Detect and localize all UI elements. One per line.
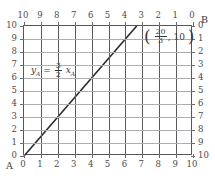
axis-tick-label-top: 5	[105, 11, 110, 20]
axis-tick-label-bottom: 0	[20, 160, 25, 169]
axis-tick-label-right: 8	[198, 125, 203, 134]
tick-left	[20, 91, 24, 92]
point-open-paren: (	[144, 26, 151, 46]
tick-right	[191, 130, 195, 131]
axis-tick-label-left: 0	[12, 151, 17, 160]
axis-tick-label-right: 5	[198, 86, 203, 95]
axis-tick-label-right: 10	[198, 151, 209, 160]
tick-left	[20, 130, 24, 131]
grid-line-vertical	[75, 26, 76, 154]
tick-right	[191, 117, 195, 118]
axis-tick-label-left: 6	[12, 73, 17, 82]
axis-tick-label-top: 0	[189, 11, 194, 20]
axis-tick-label-bottom: 6	[122, 160, 127, 169]
tick-bottom	[41, 154, 42, 158]
axis-tick-label-top: 4	[122, 11, 127, 20]
axis-tick-label-bottom: 5	[105, 160, 110, 169]
axis-tick-label-bottom: 8	[155, 160, 160, 169]
grid-line-vertical	[41, 26, 42, 154]
grid-line-horizontal	[24, 104, 191, 105]
graph-figure: A B yA = 3 2 xA ( 20 3 , 10 ) 1009182736…	[0, 0, 215, 183]
equation-fraction: 3 2	[55, 62, 62, 79]
axis-tick-label-right: 9	[198, 138, 203, 147]
tick-bottom	[24, 154, 25, 158]
axis-tick-label-bottom: 9	[172, 160, 177, 169]
axis-tick-label-right: 0	[198, 21, 203, 30]
axis-tick-label-top: 7	[71, 11, 76, 20]
tick-right	[191, 143, 195, 144]
equation-numerator: 3	[55, 62, 62, 70]
tick-bottom	[92, 154, 93, 158]
grid-line-vertical	[176, 26, 177, 154]
axis-tick-label-top: 3	[139, 11, 144, 20]
grid-line-vertical	[109, 26, 110, 154]
tick-left	[20, 65, 24, 66]
tick-bottom	[75, 154, 76, 158]
point-denominator: 3	[155, 36, 167, 45]
axis-tick-label-right: 4	[198, 73, 203, 82]
tick-left	[20, 78, 24, 79]
axis-tick-label-left: 10	[6, 21, 17, 30]
grid-line-horizontal	[24, 130, 191, 131]
axis-tick-label-bottom: 7	[139, 160, 144, 169]
axis-tick-label-left: 3	[12, 112, 17, 121]
axis-tick-label-top: 6	[88, 11, 93, 20]
axis-tick-label-left: 8	[12, 47, 17, 56]
grid-line-horizontal	[24, 52, 191, 53]
tick-left	[20, 52, 24, 53]
tick-left	[20, 104, 24, 105]
grid-line-vertical	[125, 26, 126, 154]
point-numerator: 20	[155, 28, 167, 36]
axis-tick-label-top: 2	[155, 11, 160, 20]
grid-line-vertical	[159, 26, 160, 154]
axis-tick-label-right: 6	[198, 99, 203, 108]
axis-tick-label-bottom: 4	[88, 160, 93, 169]
axis-tick-label-top: 8	[54, 11, 59, 20]
tick-left	[20, 117, 24, 118]
tick-top	[58, 22, 59, 26]
tick-top	[41, 22, 42, 26]
tick-top	[75, 22, 76, 26]
grid-line-vertical	[92, 26, 93, 154]
axis-tick-label-top: 1	[172, 11, 177, 20]
grid-line-horizontal	[24, 91, 191, 92]
axis-label-A: A	[6, 160, 13, 171]
grid-line-horizontal	[24, 143, 191, 144]
tick-bottom	[142, 154, 143, 158]
point-close-paren: )	[188, 26, 195, 46]
axis-tick-label-right: 3	[198, 60, 203, 69]
equation-annotation: yA = 3 2 xA	[31, 62, 75, 79]
tick-bottom	[176, 154, 177, 158]
axis-tick-label-bottom: 1	[37, 160, 42, 169]
tick-left	[20, 156, 24, 157]
axis-tick-label-left: 9	[12, 34, 17, 43]
tick-right	[191, 156, 195, 157]
axis-tick-label-bottom: 2	[54, 160, 59, 169]
axis-tick-label-left: 5	[12, 86, 17, 95]
equation-denominator: 2	[55, 70, 62, 79]
tick-left	[20, 143, 24, 144]
tick-bottom	[58, 154, 59, 158]
grid-line-vertical	[58, 26, 59, 154]
tick-right	[191, 104, 195, 105]
tick-left	[20, 39, 24, 40]
equation-lhs-sub: A	[36, 70, 40, 77]
equation-equals: =	[43, 66, 51, 76]
tick-bottom	[109, 154, 110, 158]
axis-tick-label-bottom: 3	[71, 160, 76, 169]
axis-tick-label-top: 9	[37, 11, 42, 20]
point-y-value: 10	[173, 32, 184, 42]
tick-top	[125, 22, 126, 26]
axis-tick-label-right: 2	[198, 47, 203, 56]
axis-tick-label-right: 7	[198, 112, 203, 121]
point-annotation: ( 20 3 , 10 )	[144, 28, 194, 45]
axis-tick-label-left: 2	[12, 125, 17, 134]
tick-right	[191, 52, 195, 53]
tick-left	[20, 26, 24, 27]
axis-tick-label-left: 1	[12, 138, 17, 147]
axis-tick-label-top: 10	[18, 11, 29, 20]
tick-top	[24, 22, 25, 26]
tick-top	[159, 22, 160, 26]
tick-top	[92, 22, 93, 26]
point-comma: ,	[168, 32, 171, 42]
